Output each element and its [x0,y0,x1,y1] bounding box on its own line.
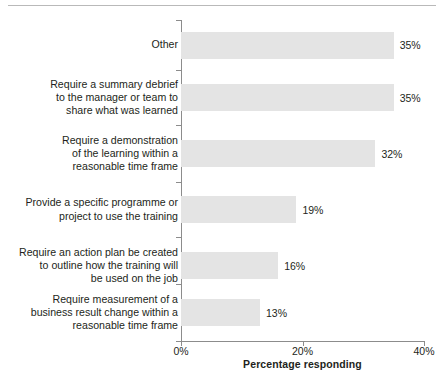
y-axis-tick [176,125,181,126]
y-axis-tick [176,284,181,285]
category-label: Require a summary debrief to the manager… [50,78,178,118]
category-label: Require measurement of a business result… [31,293,178,333]
y-axis-tick [176,237,181,238]
plot-area: Other35%Require a summary debrief to the… [0,0,442,375]
x-tick-label: 40% [413,345,434,357]
x-tick-label: 0% [173,345,188,357]
y-axis-tick [176,20,181,21]
bar [181,299,260,326]
bar [181,196,296,223]
bar [181,252,278,279]
x-axis-title: Percentage responding [181,358,424,370]
bar-value-label: 35% [400,39,421,51]
bar [181,32,394,59]
bar-value-label: 19% [302,204,323,216]
category-label: Other [152,38,179,51]
bar-value-label: 32% [381,148,402,160]
bar-chart-figure: Other35%Require a summary debrief to the… [0,0,442,375]
bar [181,140,375,167]
x-tick-label: 20% [292,345,313,357]
bar-value-label: 16% [284,260,305,272]
category-label: Require a demonstration of the learning … [62,134,178,174]
category-label: Provide a specific programme or project … [26,196,179,222]
y-axis-tick [176,182,181,183]
bar [181,84,394,111]
bar-value-label: 35% [400,92,421,104]
y-axis-tick [176,70,181,71]
category-label: Require an action plan be created to out… [19,246,178,286]
bar-value-label: 13% [266,307,287,319]
y-axis-line [181,20,182,341]
